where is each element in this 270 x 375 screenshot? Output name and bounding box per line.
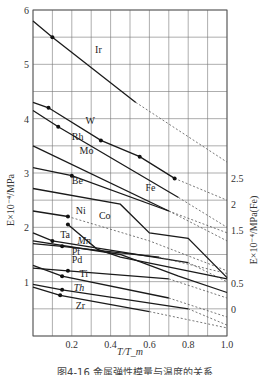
series-ir-line [33,21,136,103]
y-left-tick-label: 1 [24,277,29,288]
series-pt-line [33,244,159,258]
series-ir-marker [50,35,54,39]
grid [33,10,227,336]
series-w-label: W [85,115,95,126]
x-tick-label: 1.0 [221,339,234,350]
y-left-tick-label: 2 [24,222,29,233]
y-right-tick-labels: 2.521.50.50 [231,173,244,315]
y-left-tick-label: 5 [24,59,29,70]
series-rh-extrapolation [179,198,228,228]
series-rh-marker [56,125,60,129]
x-axis-title: T/T_m [117,346,143,357]
series-pd-label: Pd [72,254,83,265]
series-be-extrapolation [169,211,227,233]
series-th-marker [60,288,64,292]
y-left-tick-labels: 123456 [24,5,29,288]
series-pd-marker [66,269,70,273]
y-right-axis-title: E×10⁻⁴/MPa(Fe) [248,196,260,265]
x-tick-labels: 0.20.40.60.81.0 [66,339,234,350]
series-be-label: Be [72,175,84,186]
series-zr-label: Zr [76,300,86,311]
series-ti-marker [60,274,64,278]
y-right-tick-label: 0 [231,304,236,315]
y-left-tick-label: 6 [24,5,29,16]
y-left-tick-label: 3 [24,168,29,179]
series-ni-line [33,211,68,217]
series-pt-marker [60,244,64,248]
series-ti-label: Ti [80,268,89,279]
series-zr-marker [58,293,62,297]
series-rh-line [33,111,179,198]
series-w-marker [138,155,142,159]
series-ni-label: Ni [76,205,86,216]
figure-caption: 图4-16 金属弹性模量与温度的关系 [0,364,270,375]
series-co-label: Co [99,210,111,221]
series-mo-label: Mo [80,145,94,156]
series-w-marker [47,106,51,110]
x-tick-label: 0.4 [104,339,117,350]
series-ni-marker [66,214,70,218]
series-rh-label: Rh [72,131,84,142]
x-tick-label: 0.6 [143,339,156,350]
x-tick-label: 0.8 [182,339,195,350]
elastic-modulus-chart: IrWRhMoBeNiCoFeTaMnPtPdTiThZr 0.20.40.60… [0,0,270,375]
series-th-label: Th [74,282,85,293]
series-w-extrapolation [175,178,227,200]
series-mn-label: Mn [77,235,91,246]
series-ta-label: Ta [60,229,70,240]
y-left-tick-label: 4 [24,114,29,125]
series-fe-label: Fe [146,182,157,193]
y-right-tick-label: 2.5 [231,173,244,184]
x-tick-label: 0.2 [66,339,79,350]
y-right-tick-label: 2 [231,199,236,210]
series-ta-marker [50,239,54,243]
series-co-line [68,225,227,279]
series-ir-label: Ir [95,44,102,55]
series-w-marker [173,176,177,180]
y-left-axis-title: E×10⁻⁴/MPa [5,173,16,225]
y-right-tick-label: 0.5 [231,278,244,289]
series-co-marker [66,223,70,227]
series-w-marker [99,138,103,142]
y-right-tick-label: 1.5 [231,225,244,236]
